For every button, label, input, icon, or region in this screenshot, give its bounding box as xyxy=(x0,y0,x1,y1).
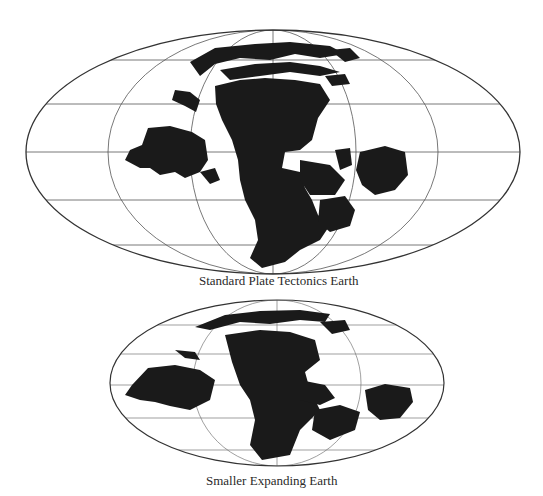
top-map-landmasses xyxy=(125,42,408,268)
standard-earth-caption: Standard Plate Tectonics Earth xyxy=(199,273,359,289)
expanding-earth-caption: Smaller Expanding Earth xyxy=(206,473,337,489)
standard-earth-map xyxy=(0,0,543,496)
